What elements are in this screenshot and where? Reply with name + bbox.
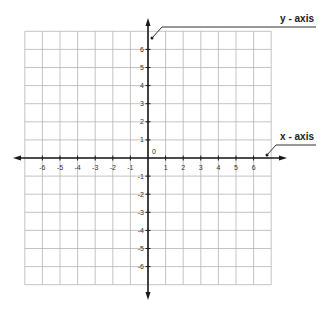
y-axis-up-arrow-icon: [146, 18, 151, 26]
y-tick-label: 5: [140, 64, 144, 71]
x-tick-label: 6: [252, 164, 256, 171]
x-tick-label: -1: [127, 164, 133, 171]
x-tick-label: 5: [234, 164, 238, 171]
axes: [13, 18, 287, 300]
y-tick-label: 2: [140, 118, 144, 125]
x-axis-callout-label: x - axis: [280, 131, 314, 142]
y-tick-label: -2: [138, 191, 144, 198]
y-axis-down-arrow-icon: [146, 292, 151, 300]
x-callout-leader: [267, 145, 316, 155]
y-tick-label: -1: [138, 173, 144, 180]
y-tick-label: -4: [138, 227, 144, 234]
y-tick-label: -5: [138, 245, 144, 252]
x-axis-right-arrow-icon: [279, 156, 287, 161]
x-tick-label: 4: [216, 164, 220, 171]
x-axis-callout: x - axis: [266, 131, 317, 157]
y-tick-label: 3: [140, 100, 144, 107]
y-axis-callout-label: y - axis: [280, 13, 314, 24]
coordinate-plane: -6-5-4-3-2-1123456654321-1-2-3-4-5-6 0 y…: [0, 0, 332, 310]
y-tick-label: -3: [138, 209, 144, 216]
x-tick-label: -5: [57, 164, 63, 171]
x-tick-label: -6: [39, 164, 45, 171]
x-tick-label: 3: [199, 164, 203, 171]
y-tick-label: -6: [138, 263, 144, 270]
y-tick-label: 6: [140, 46, 144, 53]
y-tick-label: 4: [140, 82, 144, 89]
x-tick-label: -2: [110, 164, 116, 171]
x-tick-label: -3: [92, 164, 98, 171]
y-axis-callout: y - axis: [151, 13, 317, 40]
y-tick-label: 1: [140, 136, 144, 143]
x-tick-label: 1: [164, 164, 168, 171]
x-axis-left-arrow-icon: [13, 156, 21, 161]
y-callout-leader: [152, 27, 316, 38]
x-tick-label: 2: [181, 164, 185, 171]
origin-label: 0: [152, 148, 156, 155]
x-tick-label: -4: [74, 164, 80, 171]
